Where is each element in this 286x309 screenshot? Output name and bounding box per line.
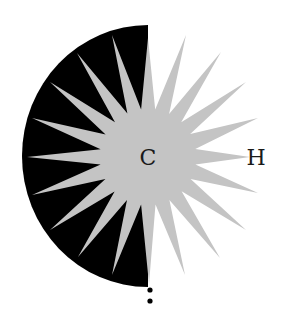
lone-pair-dots [147, 287, 152, 303]
electron-dot [147, 287, 152, 292]
carbon-orbital-diagram: C H [0, 0, 286, 309]
carbon-label: C [140, 145, 157, 170]
hydrogen-label: H [246, 145, 265, 170]
electron-dot [147, 298, 152, 303]
